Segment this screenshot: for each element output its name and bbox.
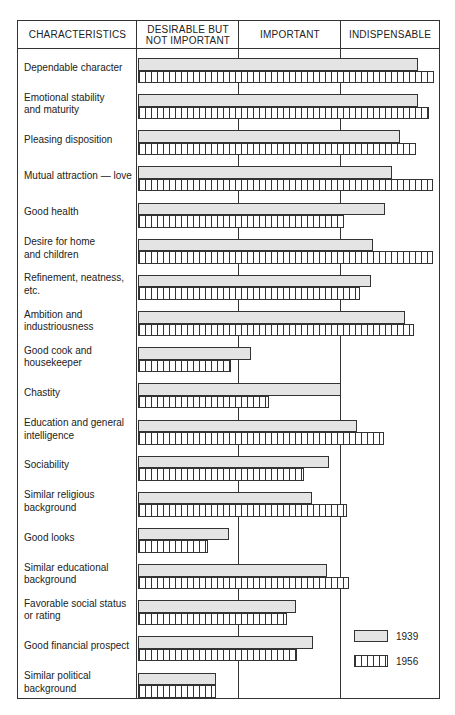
bar-1939	[138, 420, 357, 433]
bar-1956	[138, 432, 384, 445]
row-label: Good financial prospect	[24, 631, 136, 661]
row-label: Desire for home and children	[24, 234, 136, 264]
row-label: Good health	[24, 198, 136, 228]
bar-1939	[138, 58, 418, 71]
bar-1956	[138, 107, 429, 120]
row-label: Good looks	[24, 523, 136, 553]
header-desirable: DESIRABLE BUT NOT IMPORTANT	[137, 21, 239, 49]
bar-1939	[138, 275, 371, 288]
bar-1939	[138, 311, 405, 324]
bar-1956	[138, 396, 269, 409]
row-label: Similar religious background	[24, 487, 136, 517]
bar-1939	[138, 528, 229, 541]
bar-1956	[138, 143, 416, 156]
header-important: IMPORTANT	[239, 21, 341, 49]
bar-1939	[138, 94, 418, 107]
bar-1939	[138, 239, 373, 252]
legend-label-1956: 1956	[396, 656, 418, 667]
legend-swatch-1956-icon	[354, 655, 388, 667]
row-label: Education and general intelligence	[24, 415, 136, 445]
bar-1956	[138, 504, 347, 517]
bar-1956	[138, 251, 433, 264]
bar-1939	[138, 564, 327, 577]
legend-1956: 1956	[354, 655, 418, 667]
row-label: Pleasing disposition	[24, 125, 136, 155]
row-label: Similar educational background	[24, 559, 136, 589]
row-label: Emotional stability and maturity	[24, 89, 136, 119]
divider-characteristics	[136, 21, 137, 698]
bar-1956	[138, 287, 360, 300]
bar-1939	[138, 130, 400, 143]
row-label: Dependable character	[24, 53, 136, 83]
header-indispensable: INDISPENSABLE	[341, 21, 439, 49]
bar-1939	[138, 636, 313, 649]
bar-1939	[138, 456, 329, 469]
bar-1939	[138, 166, 392, 179]
bar-1956	[138, 324, 414, 337]
bar-1956	[138, 468, 304, 481]
bar-1956	[138, 71, 434, 84]
bar-1956	[138, 215, 344, 228]
bar-1956	[138, 649, 297, 662]
row-label: Similar political background	[24, 668, 136, 698]
row-label: Refinement, neatness, etc.	[24, 270, 136, 300]
bar-1939	[138, 203, 385, 216]
header-characteristics: CHARACTERISTICS	[18, 21, 137, 49]
chart-table: CHARACTERISTICS DESIRABLE BUT NOT IMPORT…	[17, 20, 440, 699]
row-label: Ambition and industriousness	[24, 306, 136, 336]
divider-important-indispensable	[340, 21, 341, 698]
bar-1939	[138, 600, 296, 613]
row-label: Good cook and housekeeper	[24, 342, 136, 372]
bar-1939	[138, 673, 216, 686]
bar-1956	[138, 179, 433, 192]
row-label: Sociability	[24, 451, 136, 481]
legend-label-1939: 1939	[396, 631, 418, 642]
row-label: Chastity	[24, 378, 136, 408]
bar-1956	[138, 577, 349, 590]
row-label: Mutual attraction — love	[24, 161, 136, 191]
bar-1956	[138, 360, 231, 373]
row-label: Favorable social status or rating	[24, 595, 136, 625]
legend-1939: 1939	[354, 630, 418, 642]
bar-1939	[138, 383, 341, 396]
bar-1939	[138, 492, 312, 505]
bar-1956	[138, 613, 287, 626]
bar-1956	[138, 685, 216, 698]
legend-swatch-1939-icon	[354, 630, 388, 642]
bar-1939	[138, 347, 251, 360]
bar-1956	[138, 540, 208, 553]
